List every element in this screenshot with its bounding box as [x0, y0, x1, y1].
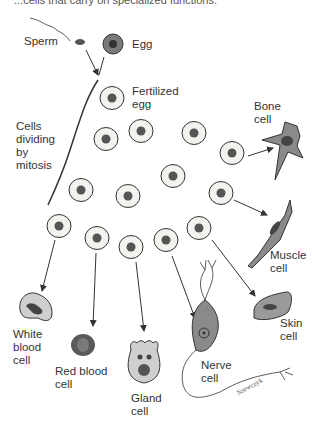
label-sperm: Sperm — [24, 35, 58, 48]
cell-differentiation-diagram: Szewczyk — [0, 0, 322, 432]
label-skin-cell: Skincell — [280, 317, 302, 343]
egg-icon — [103, 34, 123, 54]
label-bone-cell: Bonecell — [254, 100, 281, 126]
gland-cell-icon — [128, 341, 160, 383]
nerve-cell-icon — [182, 260, 293, 397]
label-white-blood-cell: Whitebloodcell — [13, 328, 42, 367]
label-gland-cell: Glandcell — [131, 392, 162, 418]
skin-cell-icon — [254, 292, 292, 320]
label-nerve-cell: Nervecell — [201, 359, 232, 385]
label-mitosis: Cellsdividingbymitosis — [16, 120, 55, 172]
label-egg: Egg — [132, 38, 152, 51]
label-red-blood-cell: Red bloodcell — [55, 365, 107, 391]
label-fertilized-egg: Fertilizedegg — [132, 85, 179, 111]
fertilized-egg-cell — [100, 87, 124, 110]
label-muscle-cell: Musclecell — [270, 249, 306, 275]
red-blood-cell-icon — [71, 334, 95, 356]
bone-cell-icon — [262, 122, 303, 180]
white-blood-cell-icon — [20, 293, 52, 321]
